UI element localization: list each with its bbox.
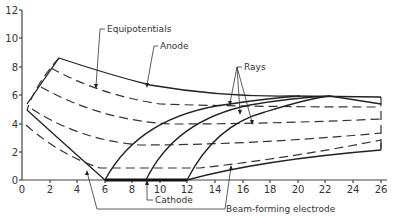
x-tick: 4 [74, 184, 80, 195]
x-tick: 18 [264, 184, 277, 195]
x-tick: 24 [347, 184, 360, 195]
x-tick: 22 [319, 184, 332, 195]
x-tick: 20 [292, 184, 305, 195]
arrow-icon [145, 83, 149, 88]
ray-3 [187, 96, 381, 180]
x-tick: 2 [47, 184, 53, 195]
y-tick: 10 [5, 33, 18, 44]
arrow-icon [229, 165, 233, 170]
y-tick: 8 [12, 62, 18, 73]
label-equipotentials: Equipotentials [107, 24, 172, 34]
x-tick-labels: 0 2 4 6 8 10 12 14 16 18 20 22 24 26 [19, 184, 388, 195]
y-tick: 6 [12, 90, 18, 101]
x-tick: 12 [181, 184, 194, 195]
y-tick-labels: 12 10 8 6 4 2 0 [5, 5, 18, 186]
x-tick: 10 [154, 184, 167, 195]
label-rays: Rays [244, 62, 266, 72]
equipotential-1 [51, 68, 381, 107]
arrow-icon [250, 120, 254, 125]
label-cathode: Cathode [155, 195, 193, 205]
x-tick: 8 [129, 184, 135, 195]
x-tick: 14 [209, 184, 222, 195]
y-tick: 4 [12, 119, 18, 130]
y-tick: 2 [12, 147, 18, 158]
x-tick: 16 [237, 184, 250, 195]
y-tick: 12 [5, 5, 18, 16]
arrow-icon [85, 170, 89, 175]
label-anode: Anode [160, 41, 189, 51]
equipotential-3 [32, 109, 381, 145]
anode-curve [27, 58, 381, 104]
equipotentials [26, 58, 381, 168]
x-tick: 6 [102, 184, 108, 195]
leaders [87, 29, 252, 209]
arrow-icon [238, 110, 242, 115]
x-tick: 26 [375, 184, 388, 195]
electron-gun-diagram: 12 10 8 6 4 2 0 0 2 4 6 8 10 12 14 16 18… [0, 0, 400, 220]
x-tick: 0 [19, 184, 25, 195]
equipotential-4 [26, 125, 381, 168]
y-tick: 0 [12, 175, 18, 186]
label-beam-forming-electrode: Beam-forming electrode [226, 204, 336, 214]
